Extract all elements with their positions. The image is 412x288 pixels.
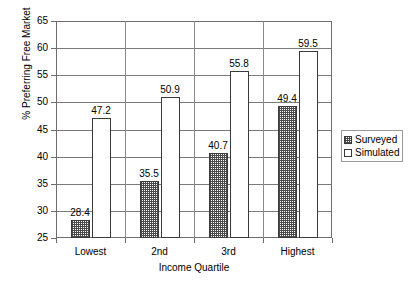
y-axis-tick-label: 35 [14, 179, 48, 189]
legend-label-simulated: Simulated [355, 147, 399, 158]
bar-simulated-3rd [230, 71, 249, 238]
x-axis-tick-mark [56, 238, 57, 243]
bar-value-label: 47.2 [85, 105, 117, 116]
category-separator [263, 21, 264, 238]
bar-chart: % Preferring Free Market 253035404550556… [0, 0, 412, 288]
x-axis-category-label: Highest [258, 246, 338, 258]
category-separator [194, 21, 195, 238]
bar-surveyed-highest [278, 106, 297, 238]
x-axis-tick-mark [125, 238, 126, 243]
legend-item-surveyed[interactable]: Surveyed [344, 133, 399, 146]
legend-swatch-simulated-icon [344, 149, 352, 157]
bar-surveyed-3rd [209, 153, 228, 238]
x-axis-tick-mark [194, 238, 195, 243]
x-axis-category-label: 2nd [120, 246, 200, 258]
bar-value-label: 55.8 [223, 58, 255, 69]
legend-swatch-surveyed-icon [344, 136, 352, 144]
x-axis-title: Income Quartile [56, 262, 332, 273]
bar-value-label: 49.4 [271, 93, 303, 104]
bar-value-label: 50.9 [154, 84, 186, 95]
y-axis-tick-label: 30 [14, 206, 48, 216]
bar-surveyed-2nd [140, 181, 159, 238]
legend-label-surveyed: Surveyed [355, 134, 397, 145]
y-axis-tick-label: 55 [14, 70, 48, 80]
y-axis-tick-label: 60 [14, 43, 48, 53]
y-axis-tick-label: 45 [14, 125, 48, 135]
x-axis-tick-mark [263, 238, 264, 243]
bar-simulated-highest [299, 51, 318, 238]
x-axis-tick-mark [332, 238, 333, 243]
legend: Surveyed Simulated [341, 130, 403, 162]
category-separator [125, 21, 126, 238]
y-axis-tick-label: 65 [14, 16, 48, 26]
bar-surveyed-lowest [71, 220, 90, 238]
bar-value-label: 28.4 [64, 207, 96, 218]
bar-value-label: 59.5 [292, 38, 324, 49]
bar-value-label: 40.7 [202, 140, 234, 151]
y-axis-tick-label: 50 [14, 97, 48, 107]
x-axis-category-label: 3rd [189, 246, 269, 258]
y-axis-tick-label: 40 [14, 152, 48, 162]
legend-item-simulated[interactable]: Simulated [344, 146, 399, 159]
bar-simulated-lowest [92, 118, 111, 238]
bar-value-label: 35.5 [133, 168, 165, 179]
x-axis-category-label: Lowest [51, 246, 131, 258]
y-axis-tick-label: 25 [14, 233, 48, 243]
